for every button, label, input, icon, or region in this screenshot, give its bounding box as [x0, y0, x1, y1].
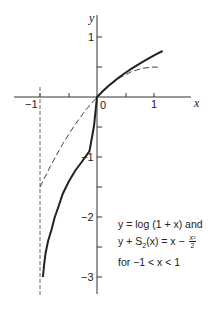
x-tick-label-1: 1: [151, 98, 157, 110]
x-axis-label: x: [193, 96, 200, 110]
x-tick-label-neg1: −1: [25, 98, 38, 110]
annotation-line-1: y = log (1 + x) and: [118, 216, 203, 233]
annotation-fraction: x²2: [189, 234, 197, 249]
fraction-denominator: 2: [189, 242, 197, 249]
annotation-line-2: y + S2(x) = x − x²2: [118, 233, 203, 255]
chart-annotation: y = log (1 + x) and y + S2(x) = x − x²2 …: [118, 216, 203, 271]
annotation-line-3: for −1 < x < 1: [118, 254, 203, 271]
y-tick-label-neg2: −2: [81, 211, 94, 223]
annotation-line-2-prefix: y + S: [118, 235, 142, 247]
fraction-numerator: x²: [189, 234, 197, 242]
y-axis-label: y: [88, 11, 95, 25]
annotation-line-2-mid: (x) = x −: [146, 235, 187, 247]
y-ticks: [97, 37, 102, 277]
y-tick-label-1: 1: [88, 31, 94, 43]
x-tick-label-0: 0: [100, 99, 106, 111]
y-tick-label-neg3: −3: [81, 271, 94, 283]
